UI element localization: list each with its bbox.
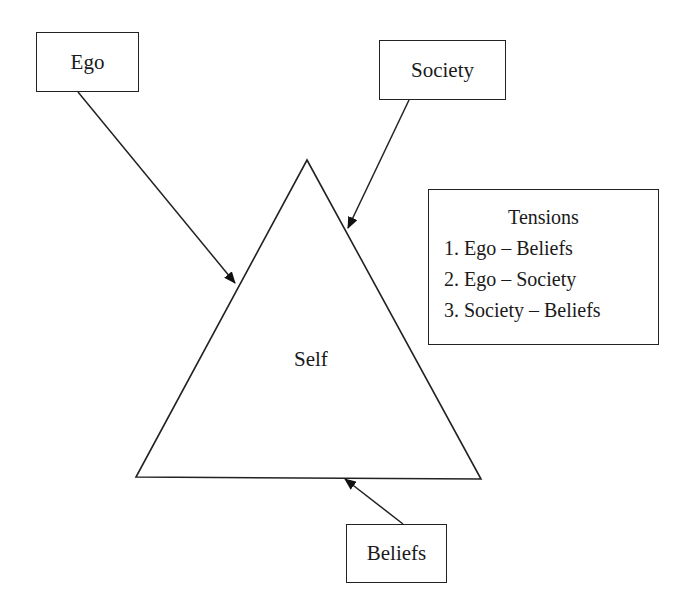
diagram-canvas: Ego Society Beliefs Self Tensions 1. Ego… <box>0 0 695 615</box>
society-label: Society <box>411 58 474 83</box>
ego-box: Ego <box>36 32 139 92</box>
tension-item: 1. Ego – Beliefs <box>429 233 658 264</box>
tensions-title: Tensions <box>429 202 658 233</box>
tension-item: 2. Ego – Society <box>429 264 658 295</box>
beliefs-box: Beliefs <box>346 524 447 583</box>
self-label: Self <box>294 347 328 372</box>
ego-arrow <box>78 92 235 283</box>
beliefs-arrow <box>345 479 403 524</box>
society-box: Society <box>379 40 506 100</box>
ego-label: Ego <box>71 50 105 75</box>
tension-item: 3. Society – Beliefs <box>429 295 658 326</box>
tensions-legend: Tensions 1. Ego – Beliefs 2. Ego – Socie… <box>428 189 659 345</box>
beliefs-label: Beliefs <box>367 541 426 566</box>
society-arrow <box>348 100 409 228</box>
